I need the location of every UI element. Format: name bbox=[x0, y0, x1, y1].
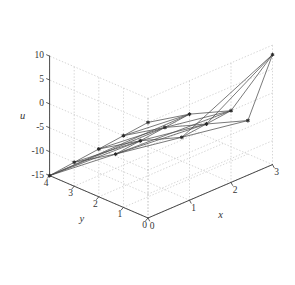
mesh-vertex-markers bbox=[48, 53, 274, 178]
ytick-label-2: 2 bbox=[93, 200, 98, 210]
ytick-label-1: 1 bbox=[118, 211, 123, 221]
axis-lines bbox=[47, 55, 275, 221]
ztick-label-5: 5 bbox=[39, 75, 44, 85]
xtick-label-3: 3 bbox=[274, 168, 279, 178]
grid-lines bbox=[50, 45, 273, 218]
ytick-label-3: 3 bbox=[68, 189, 73, 199]
ztick-label-0: 0 bbox=[39, 99, 44, 109]
mesh-edges bbox=[50, 55, 273, 176]
xtick-label-2: 2 bbox=[233, 186, 238, 196]
ztick-label-10: 10 bbox=[35, 51, 45, 61]
axis-title-u: u bbox=[20, 111, 25, 122]
axis-title-y: y bbox=[79, 214, 84, 225]
ztick-label--10: -10 bbox=[31, 147, 44, 157]
ztick-label--5: -5 bbox=[36, 123, 44, 133]
figure-3d-mesh-plot: -15-10-50510012340123uyx bbox=[0, 0, 295, 285]
ytick-label-0: 0 bbox=[142, 221, 147, 231]
ztick-label--15: -15 bbox=[31, 171, 44, 181]
axis-title-x: x bbox=[218, 210, 223, 221]
xtick-label-0: 0 bbox=[150, 222, 155, 232]
plot-canvas bbox=[0, 0, 295, 285]
ytick-label-4: 4 bbox=[44, 179, 49, 189]
xtick-label-1: 1 bbox=[191, 204, 196, 214]
